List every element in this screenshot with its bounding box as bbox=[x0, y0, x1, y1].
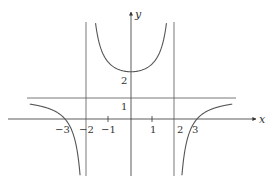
x-tick-label-1: 1 bbox=[150, 124, 156, 135]
x-tick-label-2: 2 bbox=[177, 124, 183, 135]
x-tick-label-neg3: −3 bbox=[55, 124, 70, 135]
curve-segment-1 bbox=[30, 104, 80, 175]
x-axis-label: x bbox=[259, 113, 266, 126]
x-tick-label-3: 3 bbox=[192, 124, 198, 135]
x-tick-label-neg1: −1 bbox=[101, 124, 116, 135]
y-tick-label-2: 2 bbox=[121, 75, 127, 86]
y-axis-label: y bbox=[134, 8, 142, 21]
x-tick-label-neg2: −2 bbox=[79, 124, 94, 135]
y-tick-label-1: 1 bbox=[121, 101, 127, 112]
curve-segment-3 bbox=[182, 104, 232, 175]
function-graph: x y −3 −2 −1 1 2 3 1 2 bbox=[0, 0, 273, 184]
